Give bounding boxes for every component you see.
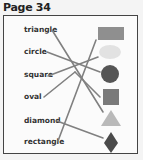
matching-lines-and-shapes xyxy=(0,0,143,160)
circle-shape xyxy=(101,65,119,83)
diamond-shape xyxy=(104,132,118,153)
square-shape xyxy=(103,89,119,105)
triangle-shape xyxy=(101,110,121,126)
matching-lines xyxy=(44,30,103,141)
oval-shape xyxy=(99,45,121,59)
line-circle xyxy=(47,52,100,72)
rectangle-shape xyxy=(98,27,124,40)
